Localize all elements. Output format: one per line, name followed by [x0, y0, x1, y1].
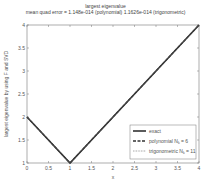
- svg-text:0: 0: [26, 165, 29, 171]
- svg-text:2.5: 2.5: [18, 91, 25, 97]
- x-axis-label: x: [112, 174, 115, 180]
- plot-area: 00.511.522.533.5411.522.533.54 x largest…: [0, 0, 211, 184]
- svg-text:1: 1: [69, 165, 72, 171]
- svg-text:1: 1: [22, 160, 25, 166]
- svg-text:2: 2: [22, 114, 25, 120]
- legend-item-trigonometric: trigonometric Nk = 11: [149, 148, 196, 155]
- svg-text:2: 2: [112, 165, 115, 171]
- legend-item-exact: exact: [149, 128, 162, 134]
- y-axis-label: largest eigenvalue by using F and SVD: [3, 50, 9, 137]
- svg-text:0.5: 0.5: [45, 165, 52, 171]
- svg-text:3: 3: [155, 165, 158, 171]
- legend: exact polynomial Nk = 6 trigonometric Nk…: [130, 125, 196, 159]
- svg-text:2.5: 2.5: [131, 165, 138, 171]
- svg-text:3: 3: [22, 68, 25, 74]
- svg-text:4: 4: [198, 165, 201, 171]
- svg-text:3.5: 3.5: [174, 165, 181, 171]
- svg-text:1.5: 1.5: [88, 165, 95, 171]
- svg-text:4: 4: [22, 22, 25, 28]
- svg-text:3.5: 3.5: [18, 45, 25, 51]
- svg-text:1.5: 1.5: [18, 137, 25, 143]
- legend-item-polynomial: polynomial Nk = 6: [149, 138, 188, 145]
